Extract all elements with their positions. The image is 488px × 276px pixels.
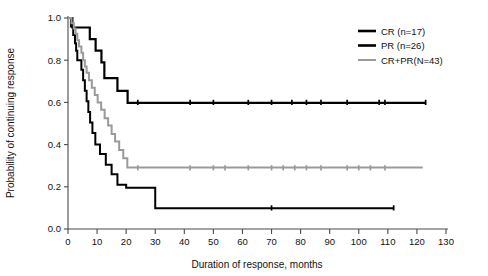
legend-label-0: CR (n=17) [381, 26, 425, 37]
x-tick-label: 80 [295, 236, 306, 247]
x-tick-label: 40 [179, 236, 190, 247]
y-tick-label: 1.0 [48, 12, 61, 23]
x-tick-label: 10 [92, 236, 103, 247]
x-tick-label: 0 [65, 236, 70, 247]
x-tick-label: 30 [150, 236, 161, 247]
y-axis-title: Probability of continuing response [5, 48, 16, 199]
y-tick-label: 0.2 [48, 181, 61, 192]
y-tick-label: 0.8 [48, 55, 61, 66]
y-tick-label: 0.6 [48, 97, 61, 108]
x-tick-label: 50 [208, 236, 219, 247]
x-tick-label: 100 [351, 236, 367, 247]
legend-label-1: PR (n=26) [381, 40, 425, 51]
survival-plot: 0.00.20.40.60.81.0 010203040506070809010… [0, 0, 488, 276]
survival-curve-1 [68, 18, 394, 208]
legend: CR (n=17)PR (n=26)CR+PR(N=43) [358, 26, 443, 66]
x-tick-label: 90 [324, 236, 335, 247]
x-tick-label: 130 [438, 236, 454, 247]
legend-label-2: CR+PR(N=43) [381, 55, 443, 66]
censor-mark-collection [138, 100, 426, 211]
x-tick-label: 70 [266, 236, 277, 247]
y-tick-label: 0.4 [48, 139, 61, 150]
kaplan-meier-figure: 0.00.20.40.60.81.0 010203040506070809010… [0, 0, 488, 276]
y-axis: 0.00.20.40.60.81.0 [48, 12, 68, 234]
x-axis: 0102030405060708090100110120130 [65, 229, 454, 247]
x-tick-label: 110 [380, 236, 395, 247]
x-tick-label: 20 [121, 236, 132, 247]
x-tick-label: 120 [409, 236, 425, 247]
x-axis-title: Duration of response, months [191, 259, 322, 270]
survival-curve-2 [68, 18, 423, 167]
y-tick-label: 0.0 [48, 223, 61, 234]
x-tick-label: 60 [237, 236, 248, 247]
